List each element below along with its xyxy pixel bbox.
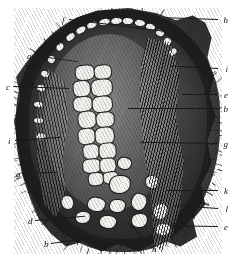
fringe-stroke bbox=[87, 248, 90, 254]
label-a: a bbox=[27, 52, 32, 61]
parenchyma-cell bbox=[83, 159, 101, 174]
fringe-stroke bbox=[14, 146, 16, 149]
parenchyma-cell bbox=[91, 79, 113, 97]
label-f: f bbox=[62, 16, 65, 25]
label-h1: h bbox=[224, 16, 229, 25]
specimen-cross-section bbox=[14, 8, 222, 254]
label-d: d bbox=[28, 217, 33, 226]
fringe-stroke bbox=[103, 10, 104, 15]
label-h2: h bbox=[152, 245, 157, 254]
fringe-stroke bbox=[14, 160, 18, 162]
fringe-stroke bbox=[206, 191, 213, 196]
parenchyma-cell bbox=[92, 96, 113, 113]
parenchyma-cell bbox=[73, 96, 93, 112]
label-i2: i bbox=[8, 137, 11, 146]
parenchyma-cell bbox=[95, 127, 115, 145]
fringe-stroke bbox=[221, 108, 222, 112]
leader-line-e1 bbox=[182, 94, 218, 95]
fringe-stroke bbox=[212, 182, 216, 186]
fringe-stroke bbox=[14, 119, 15, 121]
parenchyma-cell bbox=[83, 144, 100, 160]
label-g1: g bbox=[224, 140, 229, 149]
fringe-stroke bbox=[215, 163, 222, 167]
leader-line-b1 bbox=[128, 108, 218, 109]
parenchyma-cell bbox=[94, 65, 111, 80]
label-c: c bbox=[6, 83, 10, 92]
parenchyma-cell bbox=[99, 143, 117, 160]
fringe-stroke bbox=[110, 248, 111, 254]
figure-plate: fhaicebiggkldebh bbox=[0, 0, 233, 258]
parenchyma-cell bbox=[96, 112, 115, 128]
fringe-stroke bbox=[94, 253, 100, 254]
label-g2: g bbox=[16, 170, 21, 179]
label-i1: i bbox=[225, 65, 228, 74]
fringe-stroke bbox=[141, 8, 143, 11]
label-b1: b bbox=[224, 105, 229, 114]
label-k1: k bbox=[224, 187, 228, 196]
fringe-stroke bbox=[79, 245, 82, 252]
label-b2: b bbox=[44, 240, 49, 249]
parenchyma-cell bbox=[73, 80, 91, 97]
parenchyma-cell bbox=[78, 128, 96, 145]
label-e2: e bbox=[224, 223, 228, 232]
label-l: l bbox=[225, 205, 228, 214]
fringe-stroke bbox=[14, 131, 15, 134]
parenchyma-cell bbox=[78, 111, 97, 129]
label-e1: e bbox=[224, 91, 228, 100]
leader-line-k1 bbox=[166, 190, 218, 191]
fringe-stroke bbox=[220, 154, 222, 158]
fringe-stroke bbox=[124, 252, 126, 254]
fringe-stroke bbox=[98, 8, 101, 9]
fringe-stroke bbox=[217, 169, 222, 172]
parenchyma-cell bbox=[75, 65, 95, 81]
